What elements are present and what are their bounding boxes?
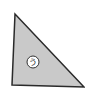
triangle-diagram: う (0, 0, 85, 93)
triangle-label: う (29, 58, 37, 67)
label-marker: う (27, 56, 39, 68)
gray-triangle (12, 14, 84, 87)
